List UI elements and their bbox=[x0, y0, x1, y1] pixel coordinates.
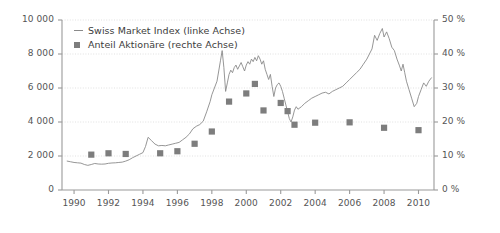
y-axis-right-tick-label: 30 % bbox=[442, 82, 465, 92]
y-axis-right-tick-label: 0 % bbox=[442, 184, 459, 194]
y-axis-right-tick-label: 10 % bbox=[442, 150, 465, 160]
y-axis-left-tick-label: 8 000 bbox=[0, 48, 54, 58]
legend-label-anteil-aktionaere: Anteil Aktionäre (rechte Achse) bbox=[88, 39, 238, 50]
legend-item-anteil-aktionaere: Anteil Aktionäre (rechte Achse) bbox=[74, 38, 245, 51]
y-axis-right-tick-label: 50 % bbox=[442, 14, 465, 24]
legend-line-marker-icon bbox=[74, 30, 88, 31]
y-axis-left-tick-label: 0 bbox=[0, 184, 54, 194]
legend-label-swiss-market-index: Swiss Market Index (linke Achse) bbox=[88, 25, 245, 36]
chart-legend: Swiss Market Index (linke Achse) Anteil … bbox=[74, 24, 245, 52]
series-scatter-anteil-aktionaere bbox=[88, 81, 421, 158]
legend-square-marker-icon bbox=[74, 42, 88, 48]
y-axis-left-tick-label: 4 000 bbox=[0, 116, 54, 126]
y-axis-right-tick-label: 40 % bbox=[442, 48, 465, 58]
legend-item-swiss-market-index: Swiss Market Index (linke Achse) bbox=[74, 24, 245, 37]
y-axis-left-tick-label: 6 000 bbox=[0, 82, 54, 92]
y-axis-left-tick-label: 2 000 bbox=[0, 150, 54, 160]
chart-container: Swiss Market Index (linke Achse) Anteil … bbox=[0, 0, 500, 233]
x-axis-tick-label: 2010 bbox=[399, 198, 439, 208]
y-axis-left-tick-label: 10 000 bbox=[0, 14, 54, 24]
y-axis-right-tick-label: 20 % bbox=[442, 116, 465, 126]
